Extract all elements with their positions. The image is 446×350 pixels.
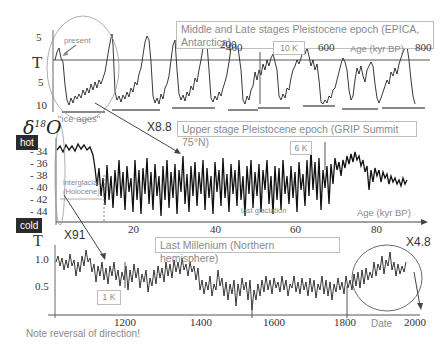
panel3-multiplier-right: X4.8 (406, 235, 431, 249)
panel2-xlabel: Age (kyr BP) (357, 207, 411, 218)
panel1-scale-label: 10 K (273, 41, 305, 55)
panel1-xtick-600: 600 (318, 41, 335, 53)
panel2-ytick-36: - 36 (30, 157, 47, 169)
present-circle (47, 16, 119, 120)
panel3-xtick-1800: 1800 (334, 316, 356, 328)
panel3-title: Last Millenium (Northern hemisphere) (155, 237, 340, 253)
panel3-xtick-1200: 1200 (114, 316, 136, 328)
panel3-scale-label: 1 K (97, 290, 121, 305)
panel1-ytick-minus10: 10 (36, 99, 47, 111)
panel2-ytick-44: - 44 (30, 205, 47, 217)
panel3-xtick-1400: 1400 (190, 316, 212, 328)
panel1-xlabel: Age (kyr BP) (350, 43, 404, 54)
panel2-ytick-34: - 34 (30, 145, 47, 157)
zoom-arrow-3 (414, 272, 420, 306)
panel1-xtick-800: 800 (415, 41, 432, 53)
panel2-series (57, 144, 407, 216)
panel2-ytick-42: - 42 (30, 193, 47, 205)
panel3-ylabel: T (33, 232, 43, 250)
panel3-xlabel: Date (371, 318, 392, 329)
interglacial-label: interglacial (63, 178, 99, 187)
panel2-multiplier: X8.8 (147, 120, 172, 134)
panel2-xtick-80: 80 (371, 223, 382, 235)
present-label: present (64, 36, 91, 45)
panel3-ytick-0-5: 0.5 (35, 280, 49, 292)
panel2-title: Upper stage Pleistocene epoch (GRIP Summ… (177, 121, 417, 137)
panel2-xtick-60: 60 (290, 223, 301, 235)
panel3-xtick-2000: 2000 (404, 316, 426, 328)
panel2-xtick-40: 40 (210, 223, 221, 235)
cold-tag: cold (16, 218, 42, 233)
panel1-ytick-5: 5 (36, 31, 42, 43)
holocene-label: (Holocene) (63, 187, 100, 196)
zoom-arrow-2 (64, 195, 104, 257)
panel2-ytick-40: - 40 (30, 181, 47, 193)
panel3-multiplier-left: X91 (64, 228, 85, 242)
last-glaciation-label: last glaciation (241, 206, 286, 215)
panel2-ytick-38: - 38 (30, 169, 47, 181)
panel3-xtick-1600: 1600 (263, 316, 285, 328)
panel1-xtick-400-visible: 400 (226, 41, 243, 53)
panel2-scale-label: 6 K (290, 141, 312, 155)
panel2-xtick-20: 20 (128, 223, 139, 235)
panel1-ytick-minus5: 5 (38, 76, 44, 88)
ice-ages-label: "ice ages" (58, 113, 100, 124)
reversal-note: Note reversal of direction! (26, 328, 140, 339)
recent-circle (352, 245, 422, 311)
panel1-ylabel: T (32, 53, 42, 73)
panel3-ytick-1-0: 1.0 (35, 253, 49, 265)
